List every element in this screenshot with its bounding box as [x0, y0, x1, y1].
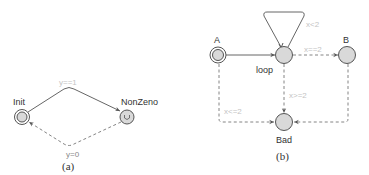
location-b: B	[339, 35, 356, 64]
guard-label: x>=2	[289, 91, 307, 100]
location-loop: loop	[256, 47, 293, 76]
update-label: y=0	[66, 150, 80, 159]
location-label: loop	[256, 65, 273, 75]
figure-a: y==1 y=0 Init NonZeno (a)	[13, 78, 158, 173]
location-circle	[213, 50, 224, 61]
location-bad: Bad	[276, 114, 293, 146]
location-label: Bad	[276, 135, 292, 145]
location-circle	[276, 47, 293, 64]
location-circle	[17, 112, 27, 122]
guard-label: x<=2	[224, 107, 242, 116]
location-circle	[120, 110, 134, 124]
location-nonzeno: NonZeno	[120, 97, 158, 124]
guard-label: y==1	[59, 78, 77, 87]
edge-nonzeno-to-init	[29, 122, 121, 146]
location-circle	[339, 47, 356, 64]
location-label: A	[214, 35, 220, 45]
location-label: Init	[13, 97, 26, 107]
diagram-canvas: y==1 y=0 Init NonZeno (a) x<2 x==2 x>=	[0, 0, 369, 175]
location-a: A	[210, 35, 226, 63]
figure-b: x<2 x==2 x>=2 x<=2 A loop B	[210, 12, 356, 163]
location-label: NonZeno	[121, 97, 158, 107]
location-init: Init	[13, 97, 30, 125]
location-circle	[276, 114, 293, 131]
caption-a: (a)	[62, 160, 75, 173]
location-label: B	[343, 35, 349, 45]
caption-b: (b)	[276, 150, 289, 163]
guard-label: x==2	[304, 45, 322, 54]
edge-init-to-nonzeno	[28, 88, 120, 113]
guard-label: x<2	[306, 20, 320, 29]
edge-loop-self	[264, 12, 304, 47]
